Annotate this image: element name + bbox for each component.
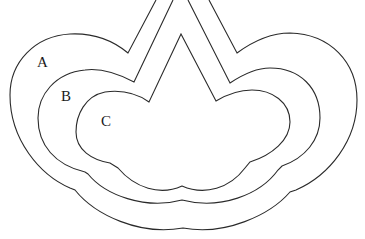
label-a: A — [37, 55, 48, 70]
label-b: B — [61, 89, 71, 104]
region-a-boundary — [10, 0, 357, 230]
label-c: C — [101, 114, 111, 129]
region-b-boundary — [38, 0, 320, 203]
diagram-canvas — [0, 0, 365, 239]
nested-regions-diagram: A B C — [0, 0, 365, 239]
